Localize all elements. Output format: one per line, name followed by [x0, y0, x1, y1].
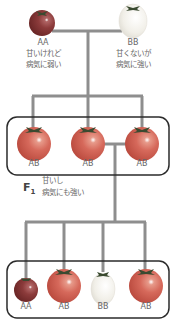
f2-genotype-3: BB	[88, 302, 118, 312]
tomato-bb-parent	[119, 4, 147, 38]
tomato-f1-2	[71, 127, 105, 161]
parent-bb-desc-2: 病気に強い	[102, 60, 164, 70]
tomato-f1-3	[125, 127, 159, 161]
tomato-aa-parent	[29, 10, 55, 36]
f2-genotype-2: AB	[49, 302, 79, 312]
f1-generation-label: F1	[23, 181, 35, 196]
f1-genotype-3: AB	[127, 159, 157, 169]
f1-desc-2: 病気にも強い	[42, 188, 84, 198]
tomato-f2-ab-2	[129, 269, 163, 303]
f1-genotype-2: AB	[73, 159, 103, 169]
tomato-f2-bb	[91, 272, 115, 305]
tomato-f2-ab-1	[47, 269, 81, 303]
f2-genotype-1: AA	[11, 302, 41, 312]
parent-bb-desc-1: 甘くないが	[102, 49, 164, 59]
f1-desc-1: 甘いし	[42, 176, 63, 186]
tomato-f1-1	[17, 127, 51, 161]
parent-aa-genotype: AA	[22, 38, 64, 48]
parent-bb-genotype: BB	[112, 38, 154, 48]
parent-aa-desc-1: 甘いけれど	[12, 49, 74, 59]
f2-genotype-4: AB	[131, 302, 161, 312]
tomato-f2-aa	[14, 278, 38, 302]
f1-genotype-1: AB	[19, 159, 49, 169]
parent-aa-desc-2: 病気に弱い	[12, 60, 74, 70]
